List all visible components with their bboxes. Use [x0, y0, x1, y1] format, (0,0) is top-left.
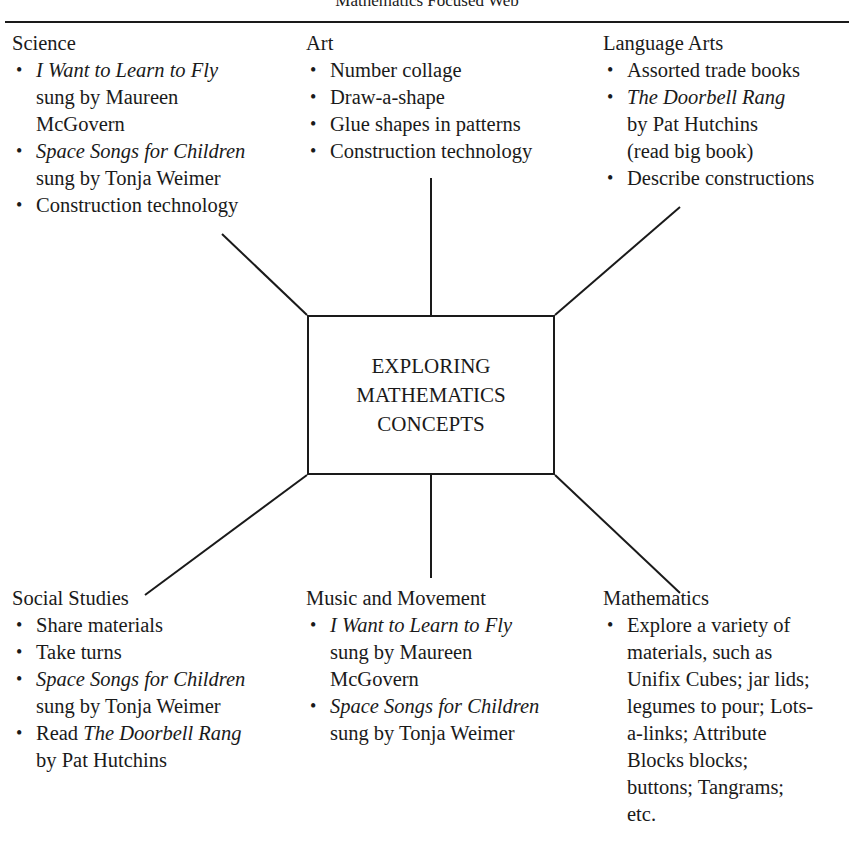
item-text: Blocks blocks;: [627, 749, 748, 771]
item-line: sung by Tonja Weimer: [36, 693, 245, 720]
item-line: (read big book): [627, 138, 814, 165]
item-text: sung by Maureen: [36, 86, 178, 108]
item-text: by Pat Hutchins: [36, 749, 167, 771]
item-text: Draw-a-shape: [330, 86, 445, 108]
item-line: sung by Maureen: [36, 84, 245, 111]
node-item-list: •Assorted trade books•The Doorbell Rangb…: [603, 57, 814, 192]
list-item: •Share materials: [12, 612, 245, 639]
list-item: •Take turns: [12, 639, 245, 666]
item-line: Number collage: [330, 57, 532, 84]
item-line: etc.: [627, 801, 813, 828]
item-line: Explore a variety of: [627, 612, 813, 639]
item-text: McGovern: [330, 668, 419, 690]
bullet-icon: •: [607, 165, 613, 192]
node-item-list: •Explore a variety ofmaterials, such asU…: [603, 612, 813, 828]
item-line: by Pat Hutchins: [627, 111, 814, 138]
connector-mathematics: [555, 475, 680, 593]
item-text: Take turns: [36, 641, 122, 663]
item-text: Describe constructions: [627, 167, 814, 189]
node-heading: Mathematics: [603, 585, 813, 612]
item-line: McGovern: [36, 111, 245, 138]
item-text: sung by Tonja Weimer: [36, 167, 221, 189]
bullet-icon: •: [607, 84, 613, 111]
item-text: Space Songs for Children: [36, 140, 245, 162]
item-line: Space Songs for Children: [36, 666, 245, 693]
item-line: Blocks blocks;: [627, 747, 813, 774]
list-item: •Explore a variety ofmaterials, such asU…: [603, 612, 813, 828]
item-line: Construction technology: [330, 138, 532, 165]
item-text: etc.: [627, 803, 656, 825]
item-line: sung by Maureen: [330, 639, 539, 666]
item-line: Assorted trade books: [627, 57, 814, 84]
item-text: Glue shapes in patterns: [330, 113, 521, 135]
bullet-icon: •: [310, 612, 316, 639]
item-text: buttons; Tangrams;: [627, 776, 784, 798]
item-text: a-links; Attribute: [627, 722, 767, 744]
list-item: •Space Songs for Childrensung by Tonja W…: [306, 693, 539, 747]
item-line: Unifix Cubes; jar lids;: [627, 666, 813, 693]
bullet-icon: •: [16, 612, 22, 639]
node-heading: Art: [306, 30, 532, 57]
item-text: legumes to pour; Lots-: [627, 695, 813, 717]
node-social-studies: Social Studies•Share materials•Take turn…: [12, 585, 245, 774]
connector-social-studies: [145, 475, 307, 595]
bullet-icon: •: [16, 192, 22, 219]
bullet-icon: •: [16, 57, 22, 84]
list-item: •Glue shapes in patterns: [306, 111, 532, 138]
node-heading: Language Arts: [603, 30, 814, 57]
connector-language-arts: [555, 207, 680, 315]
bullet-icon: •: [310, 111, 316, 138]
item-line: Draw-a-shape: [330, 84, 532, 111]
item-line: Space Songs for Children: [330, 693, 539, 720]
item-text: Explore a variety of: [627, 614, 790, 636]
node-language-arts: Language Arts•Assorted trade books•The D…: [603, 30, 814, 192]
item-text: Share materials: [36, 614, 163, 636]
node-item-list: •Number collage•Draw-a-shape•Glue shapes…: [306, 57, 532, 165]
list-item: •The Doorbell Rangby Pat Hutchins(read b…: [603, 84, 814, 165]
bullet-icon: •: [310, 138, 316, 165]
bullet-icon: •: [310, 57, 316, 84]
item-line: sung by Tonja Weimer: [36, 165, 245, 192]
item-text: Unifix Cubes; jar lids;: [627, 668, 810, 690]
item-line: I Want to Learn to Fly: [330, 612, 539, 639]
item-text: Space Songs for Children: [330, 695, 539, 717]
item-line: legumes to pour; Lots-: [627, 693, 813, 720]
item-line: The Doorbell Rang: [627, 84, 814, 111]
list-item: •Space Songs for Childrensung by Tonja W…: [12, 666, 245, 720]
item-line: Share materials: [36, 612, 245, 639]
item-text: I Want to Learn to Fly: [36, 59, 218, 81]
item-text: McGovern: [36, 113, 125, 135]
item-text: Construction technology: [330, 140, 532, 162]
bullet-icon: •: [16, 720, 22, 747]
central-concept-box: EXPLORING MATHEMATICS CONCEPTS: [307, 315, 555, 475]
item-line: Glue shapes in patterns: [330, 111, 532, 138]
bullet-icon: •: [16, 666, 22, 693]
item-text: Assorted trade books: [627, 59, 800, 81]
item-text: Construction technology: [36, 194, 238, 216]
bullet-icon: •: [16, 639, 22, 666]
node-science: Science•I Want to Learn to Flysung by Ma…: [12, 30, 245, 219]
node-mathematics: Mathematics•Explore a variety ofmaterial…: [603, 585, 813, 828]
item-line: I Want to Learn to Fly: [36, 57, 245, 84]
item-line: Construction technology: [36, 192, 245, 219]
item-line: Read The Doorbell Rang: [36, 720, 245, 747]
list-item: •Construction technology: [12, 192, 245, 219]
list-item: •Space Songs for Childrensung by Tonja W…: [12, 138, 245, 192]
item-text: materials, such as: [627, 641, 772, 663]
item-text: Number collage: [330, 59, 462, 81]
node-item-list: •I Want to Learn to Flysung by MaureenMc…: [306, 612, 539, 747]
bullet-icon: •: [607, 57, 613, 84]
item-title: The Doorbell Rang: [83, 722, 241, 744]
list-item: •I Want to Learn to Flysung by MaureenMc…: [306, 612, 539, 693]
bullet-icon: •: [310, 693, 316, 720]
node-item-list: •I Want to Learn to Flysung by MaureenMc…: [12, 57, 245, 219]
node-item-list: •Share materials•Take turns•Space Songs …: [12, 612, 245, 774]
list-item: •Draw-a-shape: [306, 84, 532, 111]
item-line: buttons; Tangrams;: [627, 774, 813, 801]
item-text: The Doorbell Rang: [627, 86, 785, 108]
item-text: I Want to Learn to Fly: [330, 614, 512, 636]
item-line: Describe constructions: [627, 165, 814, 192]
bullet-icon: •: [310, 84, 316, 111]
node-heading: Social Studies: [12, 585, 245, 612]
item-text: sung by Tonja Weimer: [330, 722, 515, 744]
